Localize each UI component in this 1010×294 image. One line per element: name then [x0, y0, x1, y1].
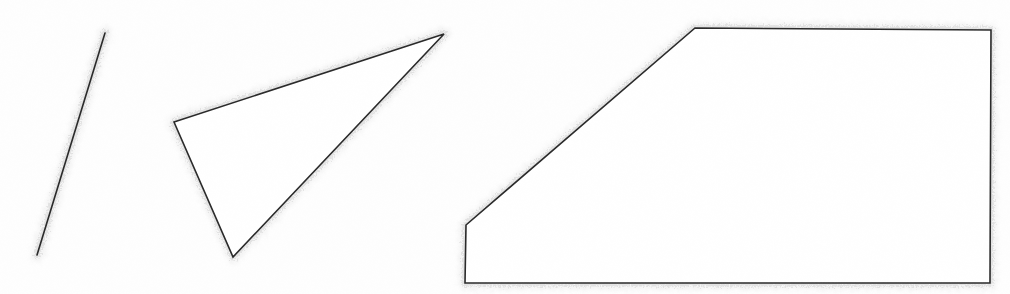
paper-grain-overlay — [0, 0, 1010, 294]
drawing-canvas — [0, 0, 1010, 294]
figure-svg — [0, 0, 1010, 294]
